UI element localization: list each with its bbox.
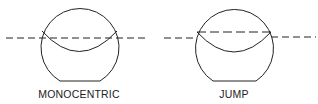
inner-arc [42, 31, 117, 52]
monocentric-lens [6, 9, 146, 81]
lens-outline [195, 9, 273, 81]
jump-label: JUMP [174, 88, 294, 100]
jump-lens [164, 9, 316, 81]
inner-arc [197, 32, 271, 52]
lens-outline [41, 9, 119, 81]
monocentric-label: MONOCENTRIC [19, 88, 139, 100]
